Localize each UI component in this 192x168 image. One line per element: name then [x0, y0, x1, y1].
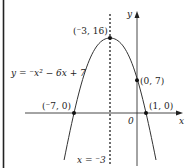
vertex-label: (⁻3, 16) [73, 26, 108, 36]
y-axis-label: y [126, 9, 133, 19]
y-axis-arrow-icon [135, 11, 140, 18]
left-root-label: (⁻7, 0) [42, 101, 71, 111]
y-intercept-point [135, 78, 139, 82]
vertex-point [108, 36, 112, 40]
right-root-point [144, 111, 148, 115]
origin-label: 0 [128, 116, 134, 126]
right-root-label: (1, 0) [149, 101, 173, 111]
x-axis-arrow-icon [176, 111, 183, 116]
equation-label: y = ⁻x² − 6x + 7 [10, 68, 86, 78]
x-axis-label: x [179, 116, 184, 126]
left-root-point [72, 111, 76, 115]
axis-of-symmetry-label: x = ⁻3 [77, 155, 106, 165]
y-intercept-label: (0, 7) [140, 76, 164, 86]
parabola-diagram: (⁻3, 16) (0, 7) (⁻7, 0) (1, 0) y = ⁻x² −… [0, 0, 192, 168]
